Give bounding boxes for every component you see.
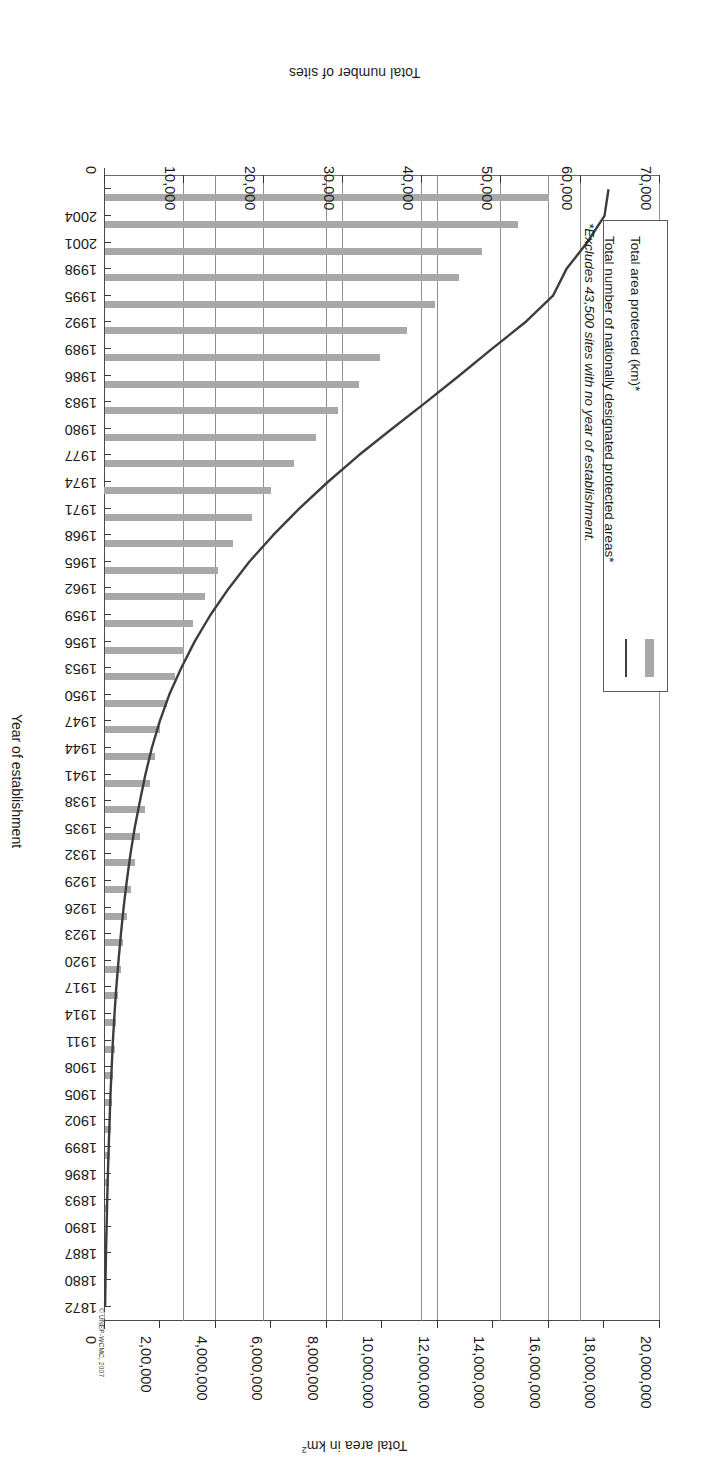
category-tick	[104, 747, 111, 748]
legend: Total area protected (km)* Total number …	[603, 220, 668, 692]
category-label: 1893	[65, 1193, 97, 1209]
category-label: 1914	[65, 1007, 97, 1023]
axis-tick-label-sites: 70,000	[638, 166, 654, 210]
category-label: 1959	[65, 608, 97, 624]
category-label: 1953	[65, 661, 97, 677]
category-label: 1926	[65, 901, 97, 917]
category-tick	[104, 1306, 111, 1307]
axis-tick-label-area: 8,000,000	[305, 1336, 321, 1401]
legend-swatch-bar	[645, 639, 654, 677]
axis-tick-label-sites: 10,000	[162, 166, 178, 210]
axis-tick-label-area: 18,000,000	[582, 1336, 598, 1409]
legend-label-0: Total area protected (km)*	[628, 236, 643, 391]
category-tick	[104, 667, 111, 668]
category-tick	[104, 295, 111, 296]
category-tick	[104, 321, 111, 322]
category-tick	[104, 827, 111, 828]
line-path	[105, 189, 608, 1306]
category-label: 1956	[65, 635, 97, 651]
category-label: 1938	[65, 794, 97, 810]
category-label: 1905	[65, 1087, 97, 1103]
axis-tick-label-area: 14,000,000	[471, 1336, 487, 1409]
category-label: 1977	[65, 448, 97, 464]
chart-figure: Total area in km2 Total number of sites …	[0, 0, 709, 1481]
category-label: 2004	[65, 209, 97, 225]
category-tick	[104, 348, 111, 349]
category-tick	[104, 1013, 111, 1014]
category-tick	[104, 1093, 111, 1094]
category-tick	[104, 508, 111, 509]
category-tick	[104, 481, 111, 482]
axis-tick-label-area: 16,000,000	[527, 1336, 543, 1409]
category-label: 1911	[66, 1034, 97, 1050]
category-label: 1923	[65, 927, 97, 943]
axis-tick-label-area: 10,000,000	[360, 1336, 376, 1409]
category-label: 1986	[65, 369, 97, 385]
category-label: 1944	[65, 741, 97, 757]
category-tick	[104, 853, 111, 854]
category-label: 1950	[65, 688, 97, 704]
footnote: *Excludes 43,500 sites with no year of e…	[582, 223, 597, 542]
category-label: 1968	[65, 528, 97, 544]
category-label: 1935	[65, 821, 97, 837]
category-tick	[104, 428, 111, 429]
category-label: 1971	[65, 502, 97, 518]
category-tick	[104, 720, 111, 721]
category-tick	[104, 1252, 111, 1253]
category-tick	[104, 375, 111, 376]
category-tick	[104, 774, 111, 775]
category-label: 2001	[65, 236, 97, 252]
category-label: 1998	[65, 262, 97, 278]
axis-tick-label-area: 12,000,000	[416, 1336, 432, 1409]
category-tick	[104, 694, 111, 695]
axis-tick-label-sites: 50,000	[479, 166, 495, 210]
category-tick	[104, 986, 111, 987]
category-tick	[104, 880, 111, 881]
category-label: 1880	[65, 1273, 97, 1289]
category-label: 1917	[65, 980, 97, 996]
category-label: 1908	[65, 1060, 97, 1076]
copyright-credit: © UNEP-WCMC, 2007	[98, 1308, 105, 1377]
category-tick	[104, 215, 111, 216]
category-label: 1872	[65, 1300, 97, 1316]
legend-label-1: Total number of nationally designated pr…	[602, 236, 617, 562]
category-label: 1932	[65, 847, 97, 863]
category-tick	[104, 907, 111, 908]
category-tick	[104, 401, 111, 402]
category-tick	[104, 614, 111, 615]
axis-tick-label-area: 0	[83, 1336, 99, 1344]
category-tick	[104, 534, 111, 535]
category-label: 1890	[65, 1220, 97, 1236]
category-label: 1896	[65, 1167, 97, 1183]
category-tick	[104, 1040, 111, 1041]
axis-tick-label-sites: 20,000	[242, 166, 258, 210]
category-label: 1989	[65, 342, 97, 358]
category-tick	[104, 242, 111, 243]
category-label: 1974	[65, 475, 97, 491]
axis-tick-label-area: 2,00,000	[138, 1336, 154, 1392]
legend-swatch-line	[625, 639, 627, 677]
category-tick	[104, 1279, 111, 1280]
axis-tick-label-area: 4,000,000	[194, 1336, 210, 1401]
category-label: 1947	[65, 714, 97, 730]
category-label: 1980	[65, 422, 97, 438]
category-tick	[104, 587, 111, 588]
category-tick	[104, 1146, 111, 1147]
category-label: 1902	[65, 1113, 97, 1129]
category-label: 1899	[65, 1140, 97, 1156]
axis-tick-label-sites: 60,000	[559, 166, 575, 210]
category-tick	[104, 268, 111, 269]
axis-tick-label-sites: 30,000	[321, 166, 337, 210]
category-label: 1920	[65, 954, 97, 970]
category-label: 1983	[65, 395, 97, 411]
category-tick	[104, 561, 111, 562]
category-tick	[104, 1226, 111, 1227]
category-tick	[104, 1066, 111, 1067]
category-label: 1995	[65, 289, 97, 305]
axis-tick-label-sites: 40,000	[400, 166, 416, 210]
category-label: 1887	[65, 1247, 97, 1263]
category-label: 1992	[65, 315, 97, 331]
axis-tick-label-area: 6,000,000	[249, 1336, 265, 1401]
category-label: 1962	[65, 581, 97, 597]
category-tick	[104, 1119, 111, 1120]
